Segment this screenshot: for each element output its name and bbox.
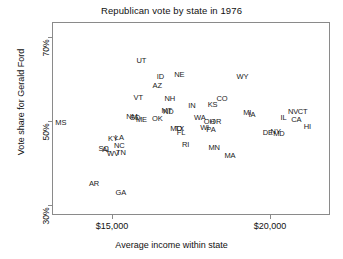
x-tick-label: $20,000 [254, 221, 287, 231]
data-point-ia: IA [249, 111, 256, 119]
data-point-az: AZ [153, 82, 162, 90]
data-point-id: ID [157, 73, 164, 81]
data-point-nd: ND [163, 108, 174, 116]
y-axis-label: Vote share for Gerald Ford [16, 2, 26, 202]
y-tick-label: 30% [41, 204, 51, 228]
data-point-ok: OK [152, 115, 163, 123]
data-point-ne: NE [174, 71, 184, 79]
data-point-hi: HI [304, 123, 311, 131]
data-point-wy: WY [237, 73, 249, 81]
data-point-ar: AR [89, 180, 99, 188]
data-point-or: OR [210, 118, 221, 126]
data-point-il: IL [281, 114, 287, 122]
data-point-ga: GA [116, 189, 127, 197]
plot-area: MSARGASCALWVTNNCKYLANMSDMEVTUTOKAZIDMTND… [52, 22, 330, 215]
data-point-ca: CA [291, 116, 301, 124]
data-point-me: ME [136, 116, 147, 124]
data-point-ms: MS [55, 119, 66, 127]
data-point-nh: NH [165, 95, 176, 103]
data-point-fl: FL [177, 129, 186, 137]
data-point-ct: CT [298, 108, 308, 116]
data-point-tn: TN [116, 149, 126, 157]
data-point-pa: PA [206, 126, 215, 134]
x-tick-label: $15,000 [96, 221, 129, 231]
y-tick-label: 50% [41, 120, 51, 144]
y-tick-label: 70% [41, 36, 51, 60]
data-point-ri: RI [182, 141, 189, 149]
x-tick-mark [112, 215, 113, 219]
scatter-plot-figure: Republican vote by state in 1976 Vote sh… [0, 0, 343, 259]
data-point-ut: UT [137, 57, 147, 65]
data-point-ma: MA [224, 152, 235, 160]
data-point-la: LA [115, 134, 124, 142]
data-point-in: IN [188, 102, 195, 110]
data-point-mn: MN [208, 144, 219, 152]
x-tick-mark [270, 215, 271, 219]
data-point-vt: VT [134, 94, 143, 102]
data-point-co: CO [216, 95, 227, 103]
chart-title: Republican vote by state in 1976 [0, 5, 343, 16]
data-point-md: MD [273, 130, 284, 138]
x-axis-label: Average income within state [0, 240, 343, 250]
data-point-nc: NC [114, 142, 125, 150]
